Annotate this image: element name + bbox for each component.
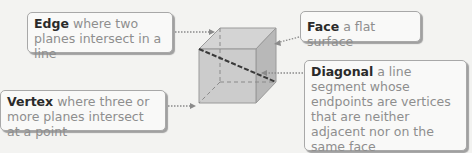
vertex-callout: Vertex where three or more planes inters… — [0, 90, 166, 131]
face-callout: Face a flat surface — [300, 11, 421, 42]
diagonal-callout: Diagonal a line segment whose endpoints … — [304, 60, 467, 151]
diagonal-term: Diagonal — [311, 64, 373, 79]
vertex-term: Vertex — [7, 94, 53, 109]
edge-term: Edge — [34, 16, 69, 31]
edge-callout: Edge where two planes intersect in a lin… — [27, 12, 173, 53]
vertex-pointer-arrow-icon — [190, 103, 196, 109]
cube-terms-diagram: Edge where two planes intersect in a lin… — [0, 0, 472, 153]
face-term: Face — [307, 19, 339, 34]
